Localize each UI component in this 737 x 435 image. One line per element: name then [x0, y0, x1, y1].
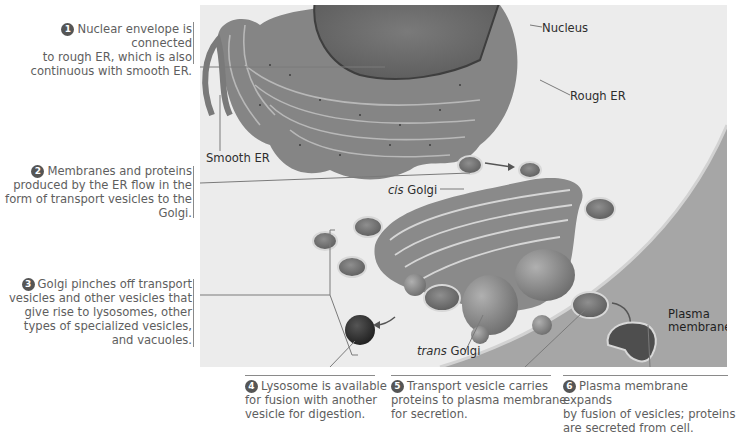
- step-4-note: 4Lysosome is available for fusion with a…: [245, 379, 387, 421]
- transport-vesicle: [458, 156, 482, 174]
- vesicle: [585, 198, 615, 220]
- cell-illustration: Nucleus Rough ER Smooth ER cis Golgi tra…: [200, 5, 727, 367]
- label-smooth-er: Smooth ER: [206, 151, 270, 165]
- step-2-badge: 2: [31, 165, 44, 178]
- label-plasma-membrane: Plasma membrane: [668, 308, 727, 334]
- step-5-rule: [391, 375, 551, 376]
- step-6-badge: 6: [563, 380, 576, 393]
- step-4-rule: [245, 375, 375, 376]
- label-nucleus: Nucleus: [542, 21, 588, 35]
- step-1-note: 1Nuclear envelope is connected to rough …: [0, 22, 192, 78]
- step-1-badge: 1: [61, 23, 74, 36]
- step-3-bracket: [193, 279, 194, 347]
- label-trans-golgi: trans Golgi: [417, 344, 480, 358]
- step-2-note: 2Membranes and proteins produced by the …: [5, 164, 192, 220]
- transport-vesicle: [519, 162, 541, 178]
- endomembrane-drawing: [200, 5, 727, 367]
- step-1-bracket: [193, 22, 194, 64]
- step-6-note: 6Plasma membrane expands by fusion of ve…: [563, 379, 737, 435]
- vesicle: [424, 285, 460, 311]
- secretory-vesicle: [572, 292, 608, 318]
- lysosome: [345, 315, 375, 345]
- vesicle: [338, 257, 366, 277]
- vesicle: [313, 232, 337, 250]
- step-3-badge: 3: [22, 278, 35, 291]
- label-rough-er: Rough ER: [570, 89, 626, 103]
- step-5-badge: 5: [391, 380, 404, 393]
- label-cis-golgi: cis Golgi: [388, 183, 437, 197]
- step-4-badge: 4: [245, 380, 258, 393]
- step-5-note: 5Transport vesicle carries proteins to p…: [391, 379, 567, 421]
- step-3-note: 3Golgi pinches off transport vesicles an…: [9, 277, 192, 347]
- vesicle: [354, 217, 382, 237]
- step-2-bracket: [193, 166, 194, 218]
- golgi-apparatus: [374, 178, 582, 335]
- step-6-rule: [563, 375, 728, 376]
